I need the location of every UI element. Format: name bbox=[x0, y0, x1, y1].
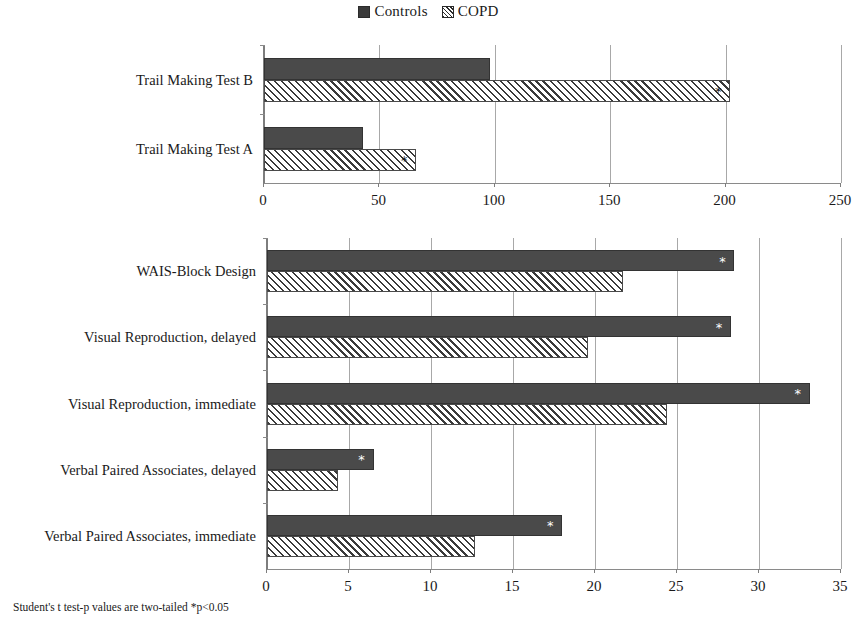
x-tick-20 bbox=[594, 569, 595, 573]
category-label: WAIS-Block Design bbox=[0, 263, 256, 280]
x-tick-250 bbox=[840, 183, 841, 187]
x-axis-line bbox=[264, 183, 840, 184]
x-axis-label-50: 50 bbox=[371, 192, 386, 209]
plot-area-trail-making: ** bbox=[263, 45, 840, 183]
bar-controls bbox=[264, 58, 490, 80]
bar-controls bbox=[267, 515, 562, 536]
category-label: Visual Reproduction, immediate bbox=[0, 395, 256, 412]
chart-trail-making: ** 050100150200250Trail Making Test ATra… bbox=[0, 0, 857, 215]
gridline-30 bbox=[759, 238, 760, 569]
plot-area-memory-battery: ***** bbox=[266, 238, 840, 569]
bar-controls bbox=[267, 383, 810, 404]
bar-controls bbox=[264, 127, 363, 149]
x-axis-label-15: 15 bbox=[505, 578, 520, 595]
x-axis-label-10: 10 bbox=[423, 578, 438, 595]
category-label: Visual Reproduction, delayed bbox=[0, 329, 256, 346]
x-tick-100 bbox=[494, 183, 495, 187]
bar-copd bbox=[267, 404, 667, 425]
y-tick bbox=[263, 437, 268, 438]
significance-asterisk: * bbox=[719, 254, 726, 267]
footnote-significance-note: Student's t test-p values are two-tailed… bbox=[13, 601, 229, 613]
x-axis-label-35: 35 bbox=[833, 578, 848, 595]
x-axis-label-25: 25 bbox=[669, 578, 684, 595]
x-axis-label-100: 100 bbox=[483, 192, 506, 209]
x-tick-15 bbox=[512, 569, 513, 573]
gridline-35 bbox=[841, 238, 842, 569]
x-tick-50 bbox=[378, 183, 379, 187]
category-label: Verbal Paired Associates, immediate bbox=[0, 527, 256, 544]
x-axis-label-30: 30 bbox=[751, 578, 766, 595]
x-tick-25 bbox=[676, 569, 677, 573]
x-axis-label-200: 200 bbox=[713, 192, 736, 209]
significance-asterisk: * bbox=[547, 519, 554, 532]
bar-copd bbox=[267, 536, 475, 557]
x-axis-label-5: 5 bbox=[344, 578, 352, 595]
x-tick-5 bbox=[348, 569, 349, 573]
category-label: Trail Making Test B bbox=[0, 71, 253, 88]
x-tick-35 bbox=[840, 569, 841, 573]
x-tick-10 bbox=[430, 569, 431, 573]
gridline-150 bbox=[610, 45, 611, 183]
bar-copd bbox=[267, 337, 588, 358]
significance-asterisk: * bbox=[716, 320, 723, 333]
category-label: Verbal Paired Associates, delayed bbox=[0, 461, 256, 478]
bar-copd bbox=[267, 271, 623, 292]
y-tick bbox=[263, 238, 268, 239]
significance-asterisk: * bbox=[795, 387, 802, 400]
bar-copd bbox=[264, 80, 730, 102]
x-axis-label-20: 20 bbox=[587, 578, 602, 595]
x-axis-label-250: 250 bbox=[829, 192, 852, 209]
significance-asterisk: * bbox=[358, 453, 365, 466]
y-tick bbox=[263, 304, 268, 305]
chart-memory-battery: ***** 05101520253035Verbal Paired Associ… bbox=[0, 225, 857, 595]
bar-copd bbox=[267, 470, 338, 491]
bar-controls bbox=[267, 250, 734, 271]
bar-controls bbox=[267, 316, 731, 337]
x-tick-0 bbox=[266, 569, 267, 573]
y-tick bbox=[263, 503, 268, 504]
gridline-200 bbox=[726, 45, 727, 183]
x-tick-150 bbox=[609, 183, 610, 187]
significance-asterisk: * bbox=[401, 153, 408, 166]
y-tick bbox=[263, 370, 268, 371]
x-tick-200 bbox=[725, 183, 726, 187]
gridline-250 bbox=[841, 45, 842, 183]
x-axis-line bbox=[267, 569, 840, 570]
gridline-25 bbox=[677, 238, 678, 569]
x-axis-label-150: 150 bbox=[598, 192, 621, 209]
category-label: Trail Making Test A bbox=[0, 140, 253, 157]
y-tick bbox=[260, 45, 265, 46]
x-axis-label-0: 0 bbox=[259, 192, 267, 209]
y-tick bbox=[260, 114, 265, 115]
gridline-100 bbox=[495, 45, 496, 183]
significance-asterisk: * bbox=[715, 84, 722, 97]
x-axis-label-0: 0 bbox=[262, 578, 270, 595]
bar-copd bbox=[264, 149, 416, 171]
x-tick-0 bbox=[263, 183, 264, 187]
x-tick-30 bbox=[758, 569, 759, 573]
